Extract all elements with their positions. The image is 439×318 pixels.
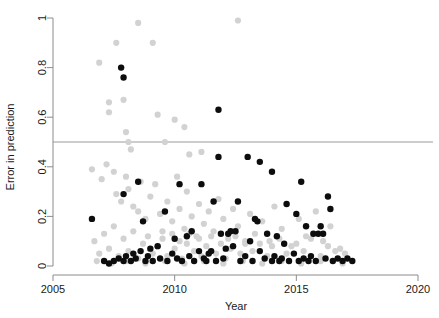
data-point xyxy=(279,226,285,232)
x-tick-label-2010: 2010 xyxy=(162,283,186,295)
plot-canvas: 00.20.40.60.81 2005201020152020 Year Err… xyxy=(0,0,439,318)
data-point xyxy=(210,198,216,204)
data-point xyxy=(213,258,219,264)
data-point xyxy=(281,240,287,246)
data-point xyxy=(181,124,187,130)
data-point xyxy=(269,243,275,249)
data-point xyxy=(172,117,178,123)
data-point xyxy=(111,169,117,175)
y-tick-label-0.8: 0.8 xyxy=(36,60,48,75)
data-point xyxy=(162,208,168,214)
data-point xyxy=(145,253,151,259)
data-point xyxy=(320,231,326,237)
data-point xyxy=(152,181,158,187)
data-point xyxy=(215,107,221,113)
data-point xyxy=(235,198,241,204)
data-point xyxy=(293,241,299,247)
data-point xyxy=(254,218,260,224)
data-point xyxy=(313,258,319,264)
data-point xyxy=(327,206,333,212)
x-tick-label-2005: 2005 xyxy=(41,283,65,295)
data-point xyxy=(184,241,190,247)
data-point xyxy=(327,223,333,229)
data-point xyxy=(220,216,226,222)
data-point xyxy=(99,176,105,182)
data-point xyxy=(189,213,195,219)
data-point xyxy=(118,198,124,204)
data-point xyxy=(164,258,170,264)
data-point xyxy=(271,203,277,209)
data-point xyxy=(135,208,141,214)
data-point xyxy=(130,203,136,209)
data-point xyxy=(332,248,338,254)
data-point xyxy=(91,238,97,244)
data-point xyxy=(135,178,141,184)
y-tick-label-1: 1 xyxy=(36,15,48,21)
data-point xyxy=(147,193,153,199)
data-point xyxy=(140,218,146,224)
data-point xyxy=(322,255,328,261)
data-point xyxy=(325,193,331,199)
data-point xyxy=(189,228,195,234)
data-point xyxy=(206,250,212,256)
data-point xyxy=(140,241,146,247)
data-point xyxy=(264,231,270,237)
data-point xyxy=(349,258,355,264)
x-tick-label-2020: 2020 xyxy=(406,283,430,295)
data-point xyxy=(133,255,139,261)
data-point xyxy=(317,223,323,229)
data-point xyxy=(279,255,285,261)
data-point xyxy=(120,97,126,103)
data-point xyxy=(118,64,124,70)
data-point xyxy=(164,198,170,204)
data-point xyxy=(247,211,253,217)
data-point xyxy=(269,169,275,175)
data-point xyxy=(271,253,277,259)
data-point xyxy=(159,228,165,234)
data-point xyxy=(155,112,161,118)
data-point xyxy=(154,243,160,249)
data-point xyxy=(89,216,95,222)
data-point xyxy=(103,161,109,167)
data-point xyxy=(237,258,243,264)
data-point xyxy=(157,255,163,261)
data-point xyxy=(96,251,102,257)
data-point xyxy=(135,20,141,26)
data-point xyxy=(130,228,136,234)
data-point xyxy=(298,178,304,184)
data-point xyxy=(94,258,100,264)
data-point xyxy=(106,109,112,115)
y-tick-label-0.6: 0.6 xyxy=(36,110,48,125)
data-point xyxy=(293,211,299,217)
data-point xyxy=(184,233,190,239)
data-point xyxy=(249,248,255,254)
data-point xyxy=(120,74,126,80)
data-point xyxy=(244,154,250,160)
data-point xyxy=(113,40,119,46)
data-point xyxy=(291,250,297,256)
data-point xyxy=(223,245,229,251)
data-point xyxy=(128,146,134,152)
data-point xyxy=(171,236,177,242)
data-point xyxy=(303,223,309,229)
data-point xyxy=(120,191,126,197)
data-point xyxy=(320,238,326,244)
data-point xyxy=(101,231,107,237)
data-point xyxy=(247,238,253,244)
data-point xyxy=(106,246,112,252)
data-point xyxy=(230,243,236,249)
data-point xyxy=(206,208,212,214)
data-point xyxy=(191,258,197,264)
data-point xyxy=(242,253,248,259)
data-point xyxy=(179,258,185,264)
data-point xyxy=(308,253,314,259)
data-point xyxy=(113,191,119,197)
data-point xyxy=(230,206,236,212)
data-point xyxy=(123,129,129,135)
data-point xyxy=(218,231,224,237)
data-point xyxy=(181,226,187,232)
data-point xyxy=(145,233,151,239)
data-point xyxy=(186,151,192,157)
data-point xyxy=(176,206,182,212)
data-point xyxy=(125,139,131,145)
